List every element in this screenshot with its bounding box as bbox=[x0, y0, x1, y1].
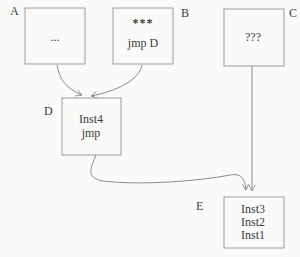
edge-a-to-d-arrow bbox=[57, 65, 82, 95]
node-d-text-line2: jmp bbox=[81, 126, 101, 140]
node-b-text-line1: *** bbox=[133, 16, 154, 30]
node-e-label: E bbox=[196, 199, 203, 213]
node-e-text-line3: Inst1 bbox=[241, 228, 265, 242]
flow-diagram: A B C D E ... *** jmp D ??? Inst4 jmp In… bbox=[0, 0, 300, 257]
edge-b-to-d-arrow bbox=[91, 65, 142, 96]
node-a-text-line1: ... bbox=[51, 30, 60, 44]
node-a-label: A bbox=[10, 4, 19, 18]
node-e-text-line1: Inst3 bbox=[241, 202, 265, 216]
node-c-text-line1: ??? bbox=[245, 30, 261, 44]
node-c-label: C bbox=[289, 6, 297, 20]
node-b-label: B bbox=[181, 6, 189, 20]
node-e-text-line2: Inst2 bbox=[241, 215, 265, 229]
node-d-text-line1: Inst4 bbox=[79, 112, 103, 126]
diagram-canvas: A B C D E ... *** jmp D ??? Inst4 jmp In… bbox=[0, 0, 300, 257]
node-d-label: D bbox=[44, 104, 53, 118]
node-b-text-line2: jmp D bbox=[127, 36, 159, 50]
edge-d-to-e-arrow bbox=[91, 155, 246, 190]
